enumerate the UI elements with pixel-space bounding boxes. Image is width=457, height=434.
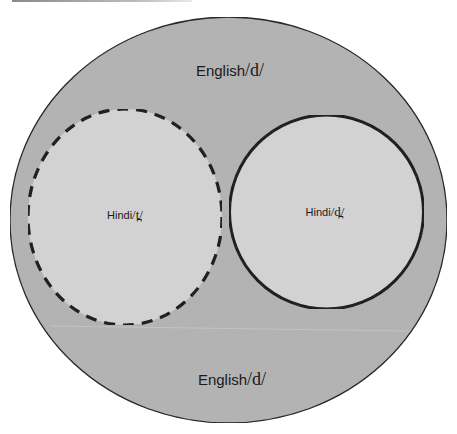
label-phoneme: /d̪/ — [331, 204, 345, 219]
outer-set-label-top: English/d/ — [196, 60, 264, 81]
label-word: English — [196, 62, 245, 79]
hindi-d-label: Hindi/d̪/ — [306, 204, 345, 220]
hindi-t-label: Hindi/t̪/ — [107, 207, 143, 223]
label-word: English — [198, 371, 247, 388]
label-word: Hindi — [306, 206, 331, 218]
label-phoneme: /t̪/ — [132, 207, 143, 222]
label-word: Hindi — [107, 209, 132, 221]
label-phoneme: /d/ — [245, 60, 264, 80]
label-phoneme: /d/ — [247, 369, 266, 389]
outer-set-label-bottom: English/d/ — [198, 369, 266, 390]
